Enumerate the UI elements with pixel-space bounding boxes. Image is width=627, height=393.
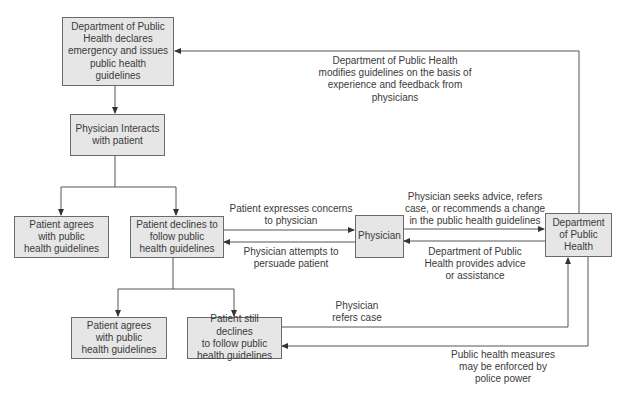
node-text: Physician (358, 230, 401, 242)
edge-label-provides-advice: Department of Public Health provides adv… (408, 246, 542, 283)
node-physician: Physician (355, 215, 404, 258)
edge-label-refers-case: Physician refers case (322, 300, 392, 324)
node-text: with public (81, 332, 156, 344)
label-line: Physician (322, 300, 392, 312)
node-patient-agrees-2: Patient agrees with public health guidel… (71, 317, 167, 359)
node-text: to follow public (191, 338, 278, 350)
node-text: Patient agrees (24, 219, 99, 231)
node-text: health guidelines (24, 243, 99, 255)
label-line: Department of Public (408, 246, 542, 258)
node-text: with public (24, 231, 99, 243)
label-line: police power (438, 373, 568, 385)
node-text: guidelines (68, 70, 168, 82)
node-text: Department (552, 217, 604, 229)
node-text: health guidelines (191, 350, 278, 362)
label-line: refers case (322, 312, 392, 324)
label-line: Physician attempts to (224, 246, 358, 258)
label-line: Physician seeks advice, refers (405, 191, 545, 203)
edge-label-expresses-concerns: Patient expresses concerns to physician (224, 203, 358, 227)
node-physician-interacts: Physician Interacts with patient (70, 114, 165, 156)
node-text: Patient declines to (136, 219, 218, 231)
node-text: Physician Interacts (76, 123, 160, 135)
node-patient-still-declines: Patient still declines to follow public … (187, 317, 282, 359)
label-line: Patient expresses concerns (224, 203, 358, 215)
node-patient-agrees-1: Patient agrees with public health guidel… (14, 216, 109, 258)
node-declare-emergency: Department of Public Health declares eme… (62, 17, 174, 86)
label-line: to physician (224, 215, 358, 227)
label-line: persuade patient (224, 258, 358, 270)
node-text: Patient still declines (191, 313, 278, 338)
label-line: physicians (300, 92, 490, 104)
label-line: experience and feedback from (300, 79, 490, 91)
label-line: Public health measures (438, 349, 568, 361)
node-text: emergency and issues (68, 45, 168, 57)
edge-label-police-power: Public health measures may be enforced b… (438, 349, 568, 386)
label-line: or assistance (408, 270, 542, 282)
node-text: Health (552, 241, 604, 253)
node-text: follow public (136, 231, 218, 243)
node-text: of Public (552, 229, 604, 241)
node-text: health guidelines (81, 344, 156, 356)
node-text: Patient agrees (81, 320, 156, 332)
node-text: Health declares (68, 33, 168, 45)
node-text: Department of Public (68, 21, 168, 33)
node-patient-declines: Patient declines to follow public health… (130, 216, 224, 258)
label-line: in the public health guidelines (405, 215, 545, 227)
label-line: Department of Public Health (300, 55, 490, 67)
node-text: health guidelines (136, 243, 218, 255)
label-line: case, or recommends a change (405, 203, 545, 215)
edge-label-seeks-advice: Physician seeks advice, refers case, or … (405, 191, 545, 228)
label-line: modifies guidelines on the basis of (300, 67, 490, 79)
node-text: with patient (76, 135, 160, 147)
edge-label-persuade-patient: Physician attempts to persuade patient (224, 246, 358, 270)
label-line: may be enforced by (438, 361, 568, 373)
node-department-public-health: Department of Public Health (545, 213, 612, 257)
label-line: Health provides advice (408, 258, 542, 270)
node-text: public health (68, 58, 168, 70)
edge-label-modifies-guidelines: Department of Public Health modifies gui… (300, 55, 490, 104)
